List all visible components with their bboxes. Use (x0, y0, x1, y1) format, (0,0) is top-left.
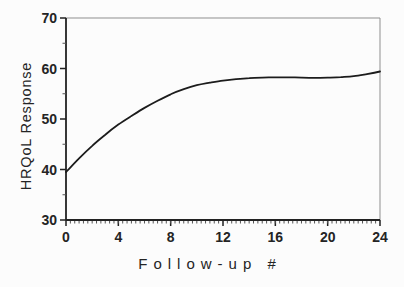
x-tick-label: 0 (62, 229, 70, 245)
plot-frame (66, 18, 380, 220)
y-tick-label: 40 (41, 162, 57, 178)
series-line (66, 72, 380, 173)
tick-labels: 048121620243040506070 (41, 10, 388, 245)
y-tick-label: 60 (41, 61, 57, 77)
line-chart: 048121620243040506070 Follow-up # HRQoL … (0, 0, 404, 287)
x-tick-label: 8 (167, 229, 175, 245)
y-tick-label: 50 (41, 111, 57, 127)
y-tick-label: 70 (41, 10, 57, 26)
chart-figure: 048121620243040506070 Follow-up # HRQoL … (0, 0, 404, 287)
y-tick-label: 30 (41, 212, 57, 228)
x-axis-label: Follow-up # (138, 255, 282, 272)
x-tick-label: 16 (268, 229, 284, 245)
x-tick-label: 4 (114, 229, 122, 245)
x-tick-label: 12 (215, 229, 231, 245)
y-axis-label: HRQoL Response (18, 62, 34, 190)
x-tick-label: 20 (320, 229, 336, 245)
axis-ticks (60, 18, 380, 226)
x-tick-label: 24 (372, 229, 388, 245)
